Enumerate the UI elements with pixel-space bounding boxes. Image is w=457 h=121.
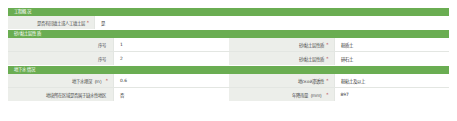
table-row: 地下水埋深（m） * 0.6 地ской渗透性 * 粉粘土及以上 [8,74,449,88]
required-marker: * [326,92,328,97]
field-label: 序号 [8,38,113,51]
field-label: 序号 [8,52,113,65]
field-sequence-number-1: 序号 1 [8,38,229,51]
field-value[interactable]: 0.6 [113,74,229,87]
table-row: 地块所在区域是否属于缺水性地区 否 年降雨量（mm） * 897 [8,88,449,101]
field-value[interactable]: 粉粘土及以上 [334,74,450,87]
required-marker: * [326,78,328,83]
field-label-text: 序号 [98,56,106,62]
required-marker: * [326,42,328,47]
field-value[interactable]: 碎石土 [334,52,450,65]
field-soil-property-2: 砂/黏土层性质 * 碎石土 [229,52,450,65]
field-label: 年降雨量（mm） * [229,88,334,101]
field-groundwater-depth: 地下水埋深（m） * 0.6 [8,74,229,87]
field-label-text: 砂/黏土层性质 [299,56,324,62]
field-value[interactable]: 2 [113,52,229,65]
required-marker: * [326,56,328,61]
field-label-text: 是否有回填土或人工填土层 [37,20,85,26]
required-marker: * [106,78,108,83]
field-value[interactable]: 897 [334,88,450,101]
field-soil-property-1: 砂/黏土层性质 * 粉质土 [229,38,450,51]
field-water-scarce-region: 地块所在区域是否属于缺水性地区 否 [8,88,229,101]
field-value[interactable]: 否 [113,88,229,101]
field-label-text: 年降雨量（mm） [292,92,325,98]
section-project-overview: 工程概况 是否有回填土或人工填土层 * 是 [8,8,449,29]
project-survey-form: 工程概况 是否有回填土或人工填土层 * 是 砂/黏土层性质 序号 1 [8,8,449,102]
field-label: 是否有回填土或人工填土层 * [8,16,94,29]
field-label: 地下水埋深（m） * [8,74,113,87]
field-value[interactable]: 是 [94,16,449,29]
field-fill-soil-layer: 是否有回填土或人工填土层 * 是 [8,16,449,29]
field-value[interactable]: 1 [113,38,229,51]
field-sequence-number-2: 序号 2 [8,52,229,65]
field-label: 地块所在区域是否属于缺水性地区 [8,88,113,101]
field-label-text: 地ской渗透性 [298,78,325,84]
required-marker: * [87,20,89,25]
field-label-text: 序号 [98,42,106,48]
field-label-text: 地下水埋深（m） [72,78,104,84]
section-header-project-overview: 工程概况 [8,8,449,16]
field-annual-rainfall: 年降雨量（mm） * 897 [229,88,450,101]
table-row: 序号 2 砂/黏土层性质 * 碎石土 [8,52,449,65]
section-header-groundwater: 地下水情况 [8,66,449,74]
field-label: 砂/黏土层性质 * [229,38,334,51]
field-soil-permeability: 地ской渗透性 * 粉粘土及以上 [229,74,450,87]
field-value[interactable]: 粉质土 [334,38,450,51]
section-soil-layer-properties: 砂/黏土层性质 序号 1 砂/黏土层性质 * 粉质土 序号 [8,30,449,65]
section-header-soil-layer-properties: 砂/黏土层性质 [8,30,449,38]
section-groundwater: 地下水情况 地下水埋深（m） * 0.6 地ской渗透性 * 粉粘土及以上 [8,66,449,101]
field-label: 地ской渗透性 * [229,74,334,87]
table-row: 是否有回填土或人工填土层 * 是 [8,16,449,29]
field-label: 砂/黏土层性质 * [229,52,334,65]
field-label-text: 砂/黏土层性质 [299,42,324,48]
field-label-text: 地块所在区域是否属于缺水性地区 [46,92,106,98]
table-row: 序号 1 砂/黏土层性质 * 粉质土 [8,38,449,52]
